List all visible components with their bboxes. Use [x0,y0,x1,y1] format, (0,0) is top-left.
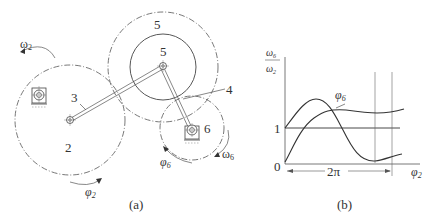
panel-b-chart: ω6 ω2 1 0 2π φ2 φ6 (b) [265,47,422,212]
figure-canvas: 5 5 3 4 2 6 ω2 φ2 φ6 ω6 (a) [0,0,437,223]
link-3 [71,65,163,121]
panel-a-caption: (a) [129,197,143,212]
phi6-curve-label: φ6 [335,88,346,103]
phi6-label: φ6 [160,155,171,170]
period-label: 2π [327,164,341,179]
link-4 [161,68,192,129]
label-3-leader [80,104,86,110]
gear-6-label: 6 [204,121,211,136]
omega2-label: ω2 [20,37,32,52]
omega6-label: ω6 [222,147,234,162]
ground-bearing-icon [31,86,47,107]
phi6-curve [285,109,404,162]
ylabel-denominator: ω2 [266,63,276,75]
x-axis-label: φ2 [411,165,422,180]
panel-a-mechanism: 5 5 3 4 2 6 ω2 φ2 φ6 ω6 (a) [15,12,234,212]
phi6-curve-leader [336,104,345,108]
gear-5-outer-label: 5 [154,17,161,32]
panel-b-caption: (b) [337,197,352,212]
link-4-label: 4 [226,82,233,97]
gear-2-label: 2 [65,140,72,155]
label-4-leader [183,89,225,99]
gear-5-inner-label: 5 [160,44,167,59]
link-3-label: 3 [71,90,78,105]
ground-bearing-icon [184,123,200,143]
phi2-label: φ2 [85,185,96,200]
pivot-joint-icon [157,60,169,72]
ylabel-numerator: ω6 [266,47,276,59]
ytick-zero: 0 [274,159,281,174]
ytick-one: 1 [274,121,281,136]
phi2-rotation-arrow-icon [70,178,102,185]
